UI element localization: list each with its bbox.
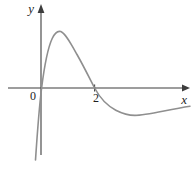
x-tick-label-2: 2 [93, 91, 99, 105]
function-graph-canvas: y x 0 2 [0, 0, 195, 172]
y-axis-label: y [26, 1, 34, 16]
x-axis-label: x [180, 92, 187, 107]
x-axis-arrow-icon [182, 85, 190, 92]
origin-label: 0 [30, 89, 36, 103]
function-curve [36, 31, 191, 160]
y-axis-arrow-icon [38, 4, 45, 13]
function-graph-figure: y x 0 2 [0, 0, 195, 172]
